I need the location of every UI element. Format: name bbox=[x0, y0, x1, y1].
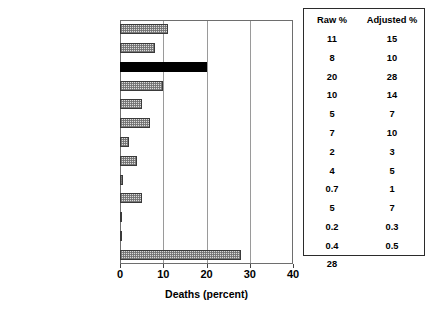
table-cell-adjusted: 15 bbox=[360, 34, 424, 44]
table-row: 1014 bbox=[304, 86, 424, 105]
bar-appliance bbox=[120, 137, 129, 147]
bar-incendiary-suspicious bbox=[120, 24, 168, 34]
table-cell-raw: 0.2 bbox=[306, 222, 358, 232]
bar-row: Exposure bbox=[0, 226, 300, 245]
table-cell-raw: 4 bbox=[306, 166, 358, 176]
bar-electrical-distribution bbox=[120, 118, 150, 128]
table-cell-raw: 11 bbox=[306, 34, 358, 44]
bar-row: Open Flame bbox=[0, 151, 300, 170]
bar-row: Appliance bbox=[0, 133, 300, 152]
bar-unknown bbox=[120, 250, 241, 260]
table-row: 0.71 bbox=[304, 180, 424, 199]
table-cell-raw: 28 bbox=[306, 259, 358, 269]
bar-row: Incendiary/Suspicious bbox=[0, 20, 300, 39]
table-cell-raw: 7 bbox=[306, 128, 358, 138]
bar-open-flame bbox=[120, 156, 137, 166]
table-header-raw: Raw % bbox=[306, 15, 358, 25]
bar-heating bbox=[120, 81, 163, 91]
table-cell-raw: 0.4 bbox=[306, 241, 358, 251]
table-header-adjusted: Adjusted % bbox=[360, 15, 424, 25]
x-tick-label-10: 10 bbox=[157, 268, 169, 280]
table-cell-raw: 10 bbox=[306, 90, 358, 100]
bar-row: Other Equipment bbox=[0, 189, 300, 208]
value-table: Raw %Adjusted %1115810202810145771023450… bbox=[303, 8, 425, 256]
bar-children-playing bbox=[120, 43, 155, 53]
table-cell-adjusted: 7 bbox=[360, 203, 424, 213]
table-header-row: Raw %Adjusted % bbox=[304, 11, 424, 30]
table-row: 710 bbox=[304, 124, 424, 143]
table-cell-adjusted: 1 bbox=[360, 184, 424, 194]
table-cell-adjusted: 28 bbox=[360, 72, 424, 82]
bar-other-equipment bbox=[120, 193, 142, 203]
bar-row: Unknown bbox=[0, 245, 300, 264]
bar-smoking bbox=[120, 62, 207, 72]
bar-cooking bbox=[120, 99, 142, 109]
bar-row: Other Heat bbox=[0, 170, 300, 189]
bar-row: Children Playing bbox=[0, 39, 300, 58]
bar-row: Electrical Distribution bbox=[0, 114, 300, 133]
table-cell-raw: 5 bbox=[306, 203, 358, 213]
table-cell-raw: 8 bbox=[306, 53, 358, 63]
table-row: 0.20.3 bbox=[304, 217, 424, 236]
table-cell-raw: 0.7 bbox=[306, 184, 358, 194]
x-axis-tick-labels: 010203040 bbox=[0, 268, 300, 284]
bar-other-heat bbox=[120, 175, 123, 185]
x-tick-label-30: 30 bbox=[244, 268, 256, 280]
table-cell-adjusted: 7 bbox=[360, 109, 424, 119]
table-row: 57 bbox=[304, 199, 424, 218]
x-tick-label-20: 20 bbox=[200, 268, 212, 280]
bar-natural bbox=[120, 212, 122, 222]
table-cell-adjusted: 0.3 bbox=[360, 222, 424, 232]
table-cell-raw: 20 bbox=[306, 72, 358, 82]
table-cell-adjusted: 10 bbox=[360, 53, 424, 63]
x-tick-label-40: 40 bbox=[287, 268, 299, 280]
table-row: 2028 bbox=[304, 67, 424, 86]
table-row: 28 bbox=[304, 255, 424, 274]
table-cell-adjusted: 5 bbox=[360, 166, 424, 176]
x-axis-title: Deaths (percent) bbox=[120, 288, 293, 300]
table-cell-raw: 5 bbox=[306, 109, 358, 119]
table-row: 0.40.5 bbox=[304, 236, 424, 255]
bar-row: Cooking bbox=[0, 95, 300, 114]
bar-row: Smoking bbox=[0, 58, 300, 77]
table-row: 45 bbox=[304, 161, 424, 180]
table-row: 1115 bbox=[304, 30, 424, 49]
table-cell-adjusted: 3 bbox=[360, 147, 424, 157]
table-row: 810 bbox=[304, 49, 424, 68]
table-cell-adjusted: 14 bbox=[360, 90, 424, 100]
table-cell-adjusted: 0.5 bbox=[360, 241, 424, 251]
bar-exposure bbox=[120, 231, 122, 241]
table-cell-adjusted: 10 bbox=[360, 128, 424, 138]
bar-row: Natural bbox=[0, 208, 300, 227]
table-row: 23 bbox=[304, 142, 424, 161]
table-cell-raw: 2 bbox=[306, 147, 358, 157]
bar-row: Heating bbox=[0, 76, 300, 95]
table-row: 57 bbox=[304, 105, 424, 124]
bar-chart: Incendiary/SuspiciousChildren PlayingSmo… bbox=[0, 0, 300, 310]
x-tick-label-0: 0 bbox=[117, 268, 123, 280]
